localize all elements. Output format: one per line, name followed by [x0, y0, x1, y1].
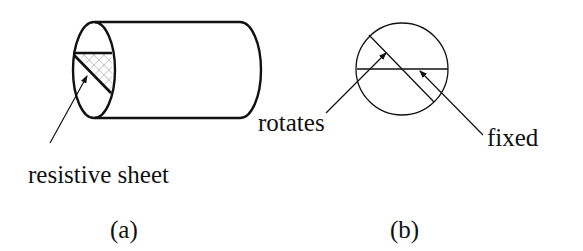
rotates-label: rotates	[258, 109, 325, 136]
fixed-label: fixed	[487, 124, 539, 151]
cylinder-back-arc	[240, 22, 261, 118]
resistive-sheet-label: resistive sheet	[28, 161, 169, 188]
caption-a: (a)	[110, 216, 138, 244]
fixed-arrow	[420, 71, 483, 135]
figure-a-cylinder	[50, 22, 261, 143]
diagram-canvas: resistive sheet (a) rotates fixed (b)	[0, 0, 583, 251]
caption-b: (b)	[390, 216, 419, 244]
figure-b-cross-section	[326, 23, 483, 135]
hatched-resistive-region	[78, 53, 113, 93]
